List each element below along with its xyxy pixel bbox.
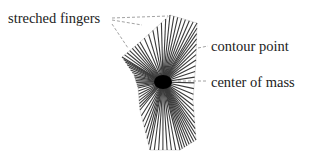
label-streched-fingers: streched fingers <box>8 11 100 26</box>
label-contour-point: contour point <box>211 39 289 54</box>
label-center-of-mass: center of mass <box>211 75 295 90</box>
center-of-mass-blob <box>154 75 172 89</box>
